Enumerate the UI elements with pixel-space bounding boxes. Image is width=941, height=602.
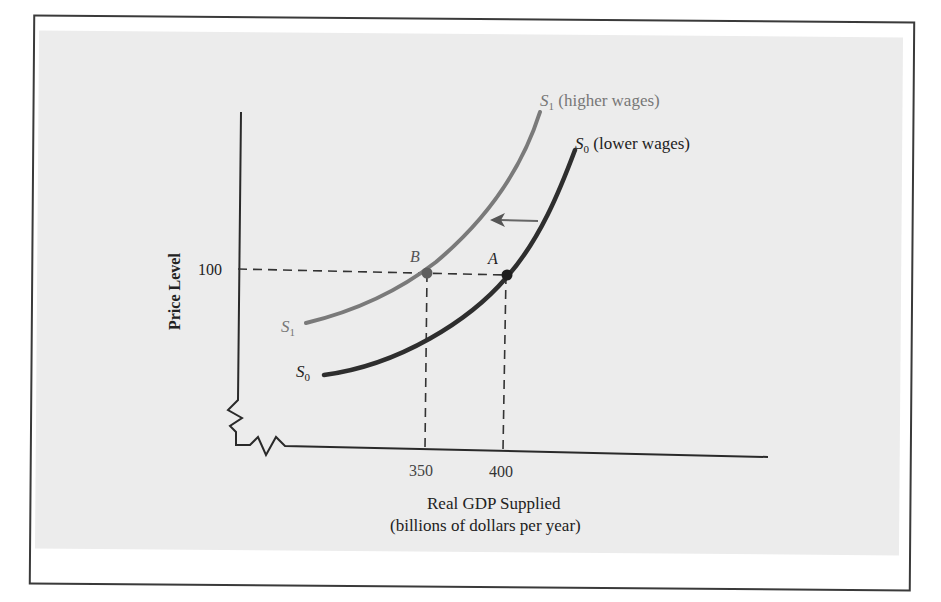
y-axis-label: Price Level [166,253,183,330]
point-a-marker [502,270,513,281]
x-tick-400: 400 [489,463,513,480]
guide-lines [238,269,506,450]
s1-end-label: S1 [281,317,295,338]
x-axis-label: Real GDP Supplied [427,494,561,513]
s0-curve [324,150,575,375]
s1-legend-label: S1 (higher wages) [540,91,660,112]
s0-legend-label: S0 (lower wages) [575,134,690,155]
point-b-label: B [410,248,420,265]
x-tick-350: 350 [409,462,433,479]
s1-curve [306,112,540,323]
shift-arrow-icon [490,213,538,227]
s0-end-label: S0 [296,362,311,383]
point-a-label: A [487,250,498,267]
supply-chart: Price Level 100 350 400 Real GDP Supplie… [0,0,941,602]
point-b-marker [422,268,433,279]
x-axis-sublabel: (billions of dollars per year) [390,516,581,535]
y-tick-100: 100 [198,261,222,278]
